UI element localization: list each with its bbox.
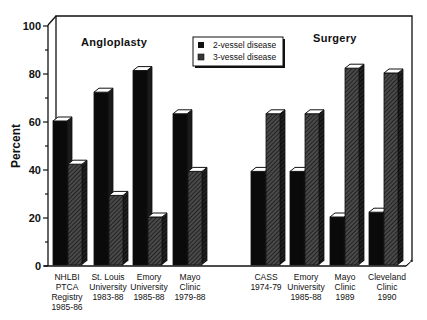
x-category-label: MayoClinic1979-88 — [174, 272, 205, 302]
x-category-label: MayoClinic1989 — [335, 272, 357, 302]
y-tick-label: 0 — [35, 260, 41, 272]
bar-3-vessel — [305, 110, 324, 265]
bar-3-vessel — [188, 167, 207, 265]
y-tick-label: 60 — [29, 116, 41, 128]
legend: 2-vessel disease 3-vessel disease — [193, 37, 285, 68]
bar-3-vessel — [266, 110, 285, 265]
left-wall-top — [48, 16, 56, 25]
bar-3-vessel — [345, 64, 364, 265]
x-category-label: ClevelandClinic1990 — [368, 272, 406, 302]
y-tick-label: 40 — [29, 164, 41, 176]
x-category-label: EmoryUniversity1985-88 — [130, 272, 168, 302]
bar-3-vessel — [109, 191, 128, 265]
x-category-label: NHLBIPTCARegistry1985-86 — [51, 272, 83, 312]
legend-swatch-3-vessel — [198, 54, 204, 60]
group-title-angioplasty: Angloplasty — [81, 36, 148, 48]
bar-3-vessel — [148, 213, 167, 265]
bar-chart: 020406080100 NHLBIPTCARegistry1985-86St.… — [0, 0, 427, 320]
legend-label-2-vessel: 2-vessel disease — [213, 40, 277, 50]
y-axis: 020406080100 — [23, 20, 48, 272]
y-tick-label: 80 — [29, 68, 41, 80]
y-tick-label: 20 — [29, 212, 41, 224]
x-category-label: CASS1974-79 — [250, 272, 281, 292]
bars — [53, 64, 411, 265]
x-category-label: St. LouisUniversity1983-88 — [89, 272, 127, 302]
bar-3-vessel — [68, 160, 87, 265]
legend-label-3-vessel: 3-vessel disease — [213, 52, 277, 62]
bar-3-vessel — [384, 69, 403, 265]
group-title-surgery: Surgery — [313, 32, 357, 44]
legend-swatch-2-vessel — [198, 42, 204, 48]
y-tick-label: 100 — [23, 20, 41, 32]
x-axis-labels: NHLBIPTCARegistry1985-86St. LouisUnivers… — [51, 272, 406, 312]
x-category-label: EmoryUniversity1985-88 — [287, 272, 325, 302]
y-axis-title: Percent — [9, 124, 23, 168]
